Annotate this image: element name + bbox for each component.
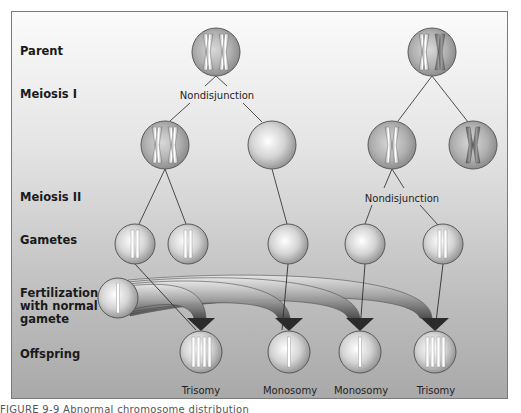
meiosis1-cell-xx bbox=[141, 121, 189, 169]
offspring-trisomy-2 bbox=[414, 331, 456, 373]
offspring-monosomy-2 bbox=[339, 331, 381, 373]
nondisjunction-label-right: Nondisjunction bbox=[365, 193, 439, 204]
fertilization-arrows bbox=[128, 275, 449, 331]
meiosis1-cell-x-light bbox=[368, 121, 416, 169]
row-label-fertilization: Fertilization with normal gamete bbox=[20, 287, 98, 326]
outcome-label-3: Monosomy bbox=[334, 385, 388, 396]
fertilization-line-3: gamete bbox=[20, 313, 98, 326]
row-label-offspring: Offspring bbox=[20, 348, 80, 361]
meiosis1-cell-empty bbox=[248, 121, 296, 169]
outcome-label-4: Trisomy bbox=[416, 385, 456, 396]
row-label-parent: Parent bbox=[20, 45, 63, 58]
gamete-4 bbox=[345, 224, 385, 264]
outcome-label-2: Monosomy bbox=[263, 385, 317, 396]
offspring-trisomy-1 bbox=[180, 331, 222, 373]
outcome-label-1: Trisomy bbox=[181, 385, 221, 396]
row-label-gametes: Gametes bbox=[20, 234, 77, 247]
gamete-3 bbox=[268, 224, 308, 264]
parent-cell-right bbox=[408, 28, 456, 76]
parent-cell-left bbox=[192, 28, 240, 76]
row-label-meiosis-2: Meiosis II bbox=[20, 191, 81, 204]
gamete-5 bbox=[423, 224, 463, 264]
gamete-2 bbox=[168, 224, 208, 264]
figure-caption: FIGURE 9-9 Abnormal chromosome distribut… bbox=[0, 404, 249, 413]
offspring-monosomy-1 bbox=[268, 331, 310, 373]
normal-gamete bbox=[98, 278, 138, 318]
row-label-meiosis-1: Meiosis I bbox=[20, 88, 77, 101]
nondisjunction-label-left: Nondisjunction bbox=[180, 90, 254, 101]
meiosis1-cell-x-dark bbox=[449, 121, 497, 169]
gamete-1 bbox=[115, 224, 155, 264]
